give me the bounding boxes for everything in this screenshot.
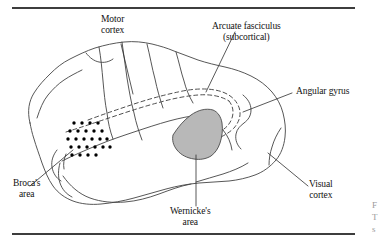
leader-line-motor-cortex — [121, 44, 133, 94]
label-wernicke-area-line2: area — [170, 217, 211, 228]
temporal-lobe-superior — [59, 163, 73, 197]
sulcus-occipital — [269, 128, 281, 165]
label-angular-gyrus-line1: Angular gyrus — [296, 86, 349, 96]
label-angular-gyrus: Angular gyrus — [296, 86, 349, 97]
label-motor-cortex-line1: Motor — [101, 14, 124, 24]
leader-line-angular-gyrus — [243, 93, 292, 112]
label-wernicke-area-line1: Wernicke's — [170, 206, 211, 216]
label-broca-area-line1: Broca's — [13, 178, 40, 188]
label-arcuate-fasciculus: Arcuate fasciculus (subcortical) — [212, 21, 281, 43]
cerebrum-outline — [29, 42, 286, 205]
brain-outline-group — [29, 42, 286, 205]
label-arcuate-fasciculus-line2: (subcortical) — [212, 32, 281, 43]
label-visual-cortex-line2: cortex — [309, 190, 333, 201]
leader-line-visual-cortex — [268, 153, 308, 186]
label-motor-cortex-line2: cortex — [101, 25, 124, 36]
caption-fragment-line2: T — [372, 212, 378, 223]
caption-fragment-line1: F — [372, 200, 377, 211]
caption-fragment-line3: s — [372, 224, 376, 235]
sulcus-frontal-notch — [86, 53, 113, 62]
label-arcuate-fasciculus-line1: Arcuate fasciculus — [212, 21, 281, 31]
label-motor-cortex: Motor cortex — [101, 14, 124, 36]
brain-language-areas-figure: Motor cortex Arcuate fasciculus (subcort… — [0, 0, 383, 247]
sulcus-frontal-superior — [37, 70, 82, 118]
label-broca-area: Broca's area — [13, 178, 40, 200]
sulcus-postcentral — [147, 44, 163, 108]
broca-dot-grid — [66, 121, 111, 156]
label-visual-cortex-line1: Visual — [309, 179, 333, 189]
wernicke-shaded-region — [173, 109, 223, 159]
arcuate-return-limb — [221, 101, 233, 131]
label-wernicke-area: Wernicke's area — [170, 206, 211, 228]
temporal-lobe-inferior — [63, 176, 191, 202]
label-broca-area-line2: area — [13, 189, 40, 200]
label-visual-cortex: Visual cortex — [309, 179, 333, 201]
